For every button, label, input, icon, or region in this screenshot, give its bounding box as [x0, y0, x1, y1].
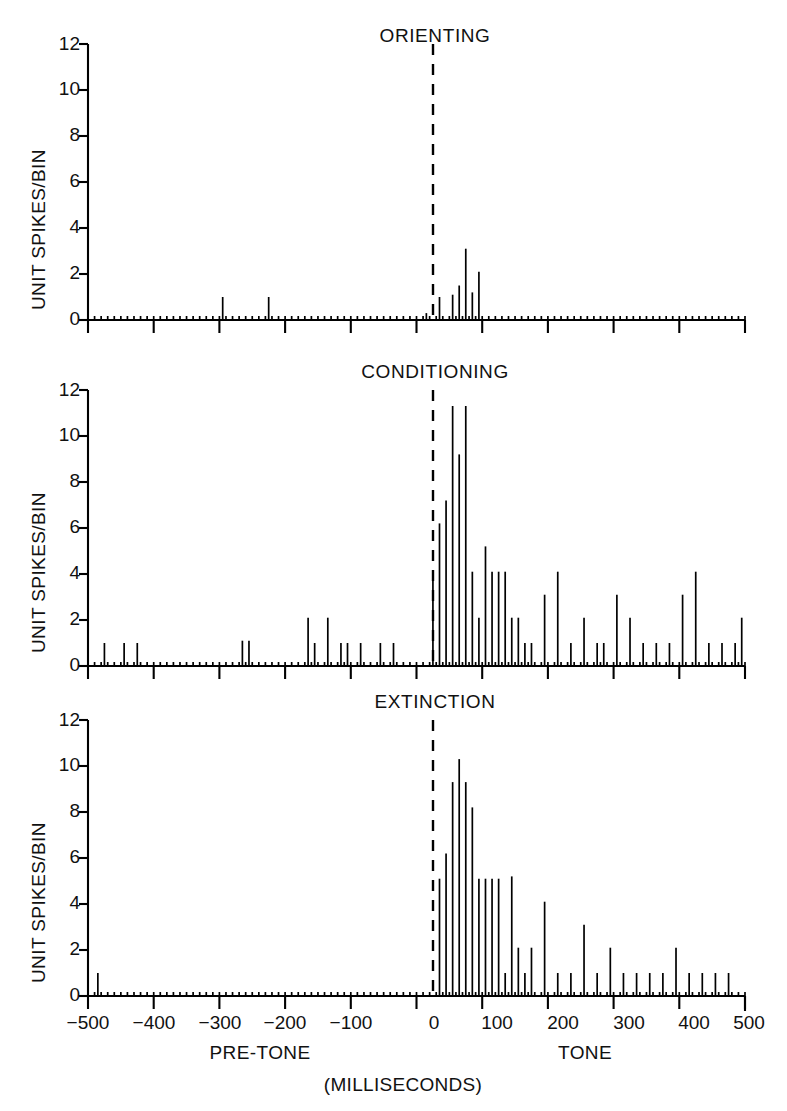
y-major-ticks-orienting	[79, 44, 88, 320]
spikes-extinction	[98, 759, 729, 996]
x-tick-label: −300	[185, 1012, 255, 1034]
x-ticks-orienting	[88, 316, 745, 333]
x-tick-label: −400	[119, 1012, 189, 1034]
y-major-ticks-conditioning	[79, 390, 88, 666]
x-axis-label: (MILLISECONDS)	[288, 1074, 518, 1096]
x-tick-label: −200	[250, 1012, 320, 1034]
histogram-svg-conditioning	[0, 353, 787, 693]
plot-area-orienting	[0, 0, 787, 360]
x-ticks-extinction	[88, 992, 745, 1009]
x-tick-label: 0	[399, 1012, 469, 1034]
panel-orienting: ORIENTING UNIT SPIKES/BIN 12 10 8 6 4 2 …	[0, 0, 787, 360]
x-tick-label: 300	[594, 1012, 664, 1034]
spikes-conditioning	[104, 406, 741, 666]
x-tick-label: 100	[462, 1012, 532, 1034]
plot-area-conditioning	[0, 353, 787, 693]
axes-extinction	[88, 720, 745, 1011]
x-tick-label: −500	[53, 1012, 123, 1034]
y-major-ticks-extinction	[79, 720, 88, 996]
x-tick-label: −100	[316, 1012, 386, 1034]
figure-root: ORIENTING UNIT SPIKES/BIN 12 10 8 6 4 2 …	[0, 0, 787, 1111]
panel-conditioning: CONDITIONING UNIT SPIKES/BIN 12 10 8 6 4…	[0, 353, 787, 693]
histogram-svg-extinction	[0, 682, 787, 1111]
pre-tone-label: PRE-TONE	[180, 1042, 340, 1064]
panel-extinction: EXTINCTION UNIT SPIKES/BIN 12 10 8 6 4 2…	[0, 682, 787, 1111]
x-ticks-conditioning	[88, 662, 745, 679]
histogram-svg-orienting	[0, 0, 787, 360]
x-tick-label: 200	[528, 1012, 598, 1034]
tone-label: TONE	[510, 1042, 660, 1064]
plot-area-extinction	[0, 682, 787, 1111]
axes-orienting	[88, 44, 745, 320]
axes-conditioning	[88, 390, 745, 666]
x-tick-label: 500	[714, 1012, 784, 1034]
spikes-orienting	[223, 249, 479, 320]
